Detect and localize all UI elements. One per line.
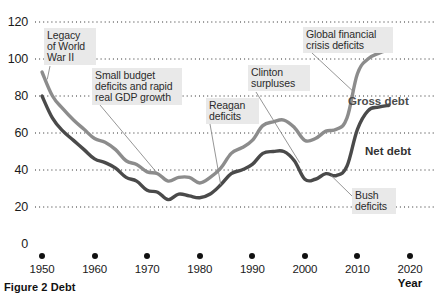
x-tick-label-1970: 1970 xyxy=(125,263,169,275)
x-tick-label-1950: 1950 xyxy=(20,263,64,275)
figure-caption: Figure 2 Debt xyxy=(4,281,76,293)
leader-line-bush-deficits xyxy=(331,176,352,196)
x-tick-dot-1980 xyxy=(197,253,203,259)
gross-debt-label: Gross debt xyxy=(348,95,409,107)
y-tick-80: 80 xyxy=(2,89,28,103)
x-tick-label-1990: 1990 xyxy=(230,263,274,275)
annotation-bush-deficits: Bush deficits xyxy=(352,188,396,214)
y-tick-60: 60 xyxy=(2,126,28,140)
x-tick-label-1960: 1960 xyxy=(73,263,117,275)
x-tick-dot-2020 xyxy=(407,253,413,259)
annotation-legacy-wwii: Legacy of World War II xyxy=(44,28,96,65)
x-tick-dot-2010 xyxy=(354,253,360,259)
x-tick-dot-1960 xyxy=(92,253,98,259)
y-tick-120: 120 xyxy=(2,15,28,29)
x-tick-label-2000: 2000 xyxy=(283,263,327,275)
net-debt-label: Net debt xyxy=(365,145,411,157)
x-tick-dot-2000 xyxy=(302,253,308,259)
y-tick-40: 40 xyxy=(2,163,28,177)
figure-debt: 020406080100120 195019601970198019902000… xyxy=(0,0,441,299)
x-axis-title: Year xyxy=(388,277,432,289)
x-tick-dot-1950 xyxy=(39,253,45,259)
annotation-reagan-deficits: Reagan deficits xyxy=(206,98,259,124)
annotation-global-financial-crisis: Global financial crisis deficits xyxy=(303,27,393,53)
x-tick-dot-1970 xyxy=(144,253,150,259)
annotation-clinton-surpluses: Clinton surpluses xyxy=(248,65,310,91)
leader-line-global-financial-crisis xyxy=(312,53,352,90)
x-tick-label-2010: 2010 xyxy=(335,263,379,275)
leader-line-legacy-wwii xyxy=(47,66,50,79)
x-tick-label-1980: 1980 xyxy=(178,263,222,275)
x-tick-label-2020: 2020 xyxy=(388,263,432,275)
annotation-small-deficits: Small budget deficits and rapid real GDP… xyxy=(92,68,182,105)
x-tick-dot-1990 xyxy=(249,253,255,259)
y-tick-0: 0 xyxy=(2,237,28,251)
y-tick-20: 20 xyxy=(2,200,28,214)
y-tick-100: 100 xyxy=(2,52,28,66)
